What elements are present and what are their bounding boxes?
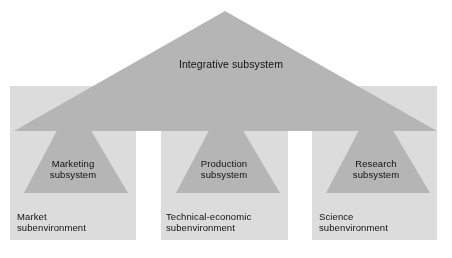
research-subsystem-label: Research subsystem [316,158,436,180]
marketing-subsystem-label: Marketing subsystem [13,158,133,180]
science-subenvironment-label: Science subenvironment [319,211,447,233]
integrative-subsystem-label: Integrative subsystem [146,58,316,70]
diagram-canvas: Integrative subsystem Marketing subsyste… [0,0,452,258]
technical-economic-subenvironment-label: Technical-economic subenvironment [166,211,294,233]
market-subenvironment-label: Market subenvironment [17,211,145,233]
production-subsystem-label: Production subsystem [164,158,284,180]
